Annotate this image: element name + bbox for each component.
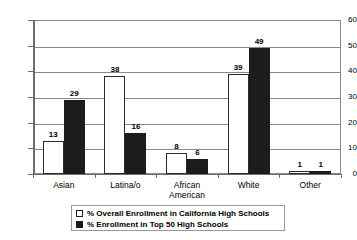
legend-item-overall-enrollment: % Overall Enrollment in California High … [76, 208, 280, 219]
bar [125, 133, 146, 174]
x-tick-mark [218, 174, 219, 178]
bar-value-label: 1 [289, 161, 310, 169]
bar-value-label: 13 [43, 131, 64, 139]
legend-label: % Overall Enrollment in California High … [87, 209, 269, 218]
bar [228, 74, 249, 174]
x-category-label: Other [279, 180, 341, 190]
bar [166, 153, 187, 174]
bar [64, 100, 85, 174]
legend-swatch-dark-icon [76, 221, 83, 228]
x-tick-mark [156, 174, 157, 178]
bar-value-label: 8 [166, 143, 187, 151]
legend-item-top50-enrollment: % Enrollment in Top 50 High Schools [76, 219, 280, 230]
bar-value-label: 6 [187, 149, 208, 157]
x-tick-mark [341, 174, 342, 178]
bar-chart: 0102030405060 1329381686394911 AsianLati… [0, 0, 357, 240]
legend: % Overall Enrollment in California High … [71, 205, 285, 231]
legend-label: % Enrollment in Top 50 High Schools [87, 220, 228, 229]
bar-value-label: 29 [64, 90, 85, 98]
bar-value-label: 49 [249, 38, 270, 46]
x-tick-mark [95, 174, 96, 178]
bar [249, 48, 270, 174]
bar-value-label: 1 [310, 161, 331, 169]
x-tick-mark [33, 174, 34, 178]
x-axis-line [33, 174, 342, 175]
bar [43, 141, 64, 174]
x-category-label: White [218, 180, 280, 190]
bar [187, 159, 208, 174]
x-category-label: Asian [33, 180, 95, 190]
bar [104, 76, 125, 174]
x-category-label: Latina/o [95, 180, 157, 190]
x-tick-mark [279, 174, 280, 178]
bar-value-label: 38 [104, 66, 125, 74]
bar-value-label: 16 [125, 123, 146, 131]
bar-value-label: 39 [228, 64, 249, 72]
legend-swatch-light-icon [76, 210, 83, 217]
x-category-label: African American [156, 180, 218, 200]
